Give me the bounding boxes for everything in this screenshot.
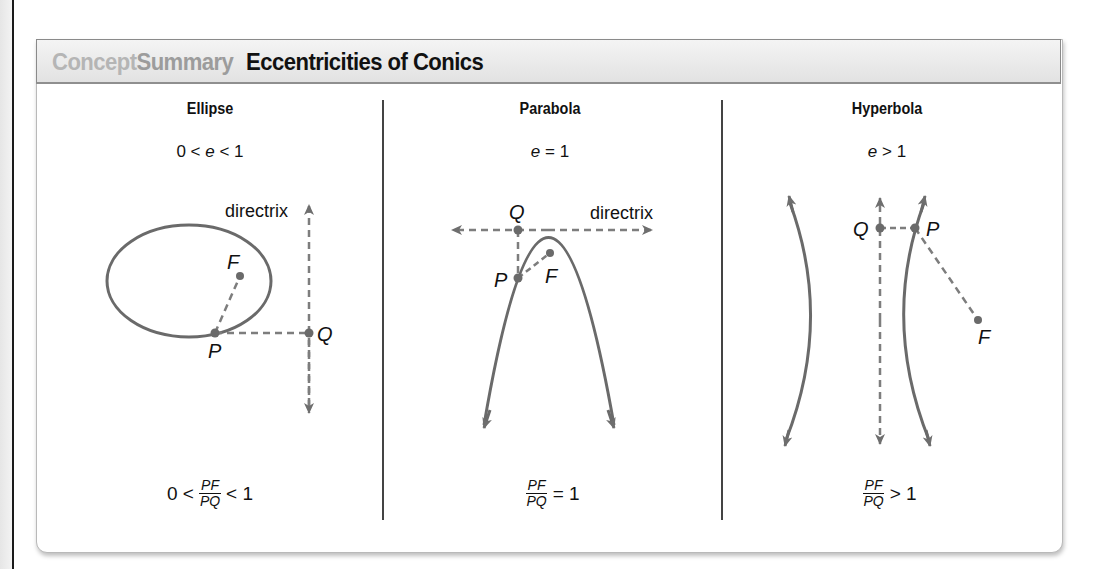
svg-text:directrix: directrix [590,203,653,223]
ellipse-curve [107,225,271,337]
hyperbola-p-point [911,224,920,233]
ellipse-q-point [305,329,314,338]
svg-text:P: P [926,218,940,240]
parabola-diagram: Q P F directrix [452,201,653,428]
hyperbola-diagram: Q P F [785,196,992,446]
hyperbola-focus-point [974,316,982,324]
hyperbola-q-point [876,224,885,233]
ellipse-diagram: F P Q directrix [107,201,333,413]
svg-text:F: F [227,251,241,273]
svg-text:P: P [494,269,508,291]
svg-text:F: F [545,265,559,287]
svg-text:directrix: directrix [225,201,288,221]
parabola-focus-point [546,249,554,257]
ellipse-focus-point [236,272,244,280]
svg-text:F: F [978,326,992,348]
hyperbola-pf-segment [915,228,978,320]
hyperbola-left-branch [786,203,811,440]
ellipse-pf-segment [215,276,240,333]
svg-text:Q: Q [509,201,525,223]
parabola-p-point [514,274,523,283]
conics-diagrams: F P Q directrix Q P F directrix Q [0,0,1096,569]
svg-text:Q: Q [853,218,869,240]
parabola-q-point [514,226,523,235]
svg-text:Q: Q [317,323,333,345]
svg-text:P: P [208,340,222,362]
ellipse-p-point [211,329,220,338]
